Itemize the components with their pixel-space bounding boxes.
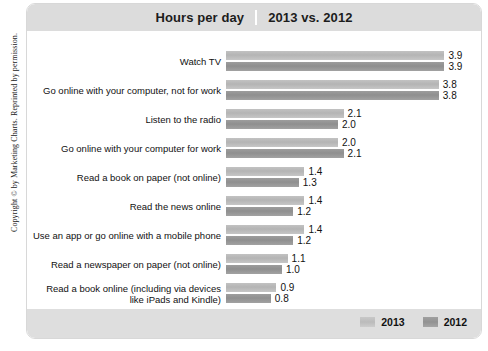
bar-row-label: Listen to the radio [27,114,226,125]
bar-value-label: 3.8 [443,91,457,100]
bar-row-bars: 0.90.8 [226,279,481,308]
bar-rect [226,294,271,303]
bar-rect [226,283,276,292]
bar-value-label: 2.0 [342,138,356,147]
bar-2013: 0.9 [226,283,294,292]
bar-row-bars: 3.93.9 [226,47,481,76]
chart-subtitle: 2013 vs. 2012 [268,10,352,25]
chart-plot-area: Watch TV3.93.9Go online with your comput… [27,31,481,311]
bar-row-bars: 1.41.3 [226,163,481,192]
bar-row-label: Watch TV [27,56,226,67]
bar-value-label: 1.4 [308,196,322,205]
bar-row-bars: 2.12.0 [226,105,481,134]
bar-rect [226,236,293,245]
bar-rect [226,196,304,205]
bar-2013: 1.4 [226,225,322,234]
bar-2012: 2.0 [226,120,356,129]
bar-rect [226,91,439,100]
bar-rect [226,51,444,60]
bar-value-label: 2.1 [348,109,362,118]
bar-2012: 3.9 [226,62,462,71]
bar-row: Watch TV3.93.9 [27,47,481,76]
bar-value-label: 1.4 [308,225,322,234]
bar-value-label: 1.4 [308,167,322,176]
bar-row: Go online with your computer, not for wo… [27,76,481,105]
bar-2013: 3.9 [226,51,462,60]
bar-row-label: Use an app or go online with a mobile ph… [27,230,226,241]
bar-row-bars: 1.41.2 [226,221,481,250]
bar-2013: 2.1 [226,109,362,118]
bar-rect [226,120,338,129]
chart-screenshot: Copyright © by Marketing Charts. Reprint… [0,0,488,351]
legend-swatch-icon [360,317,375,327]
bar-rect [226,138,338,147]
bar-row-label: Go online with your computer for work [27,143,226,154]
legend-label: 2012 [444,316,467,328]
chart-title: Hours per day [155,10,244,25]
chart-header: Hours per day 2013 vs. 2012 [27,4,481,31]
bar-rect [226,167,304,176]
chart-footer: 20132012 [27,309,481,338]
bar-row-bars: 3.83.8 [226,76,481,105]
bar-2012: 1.2 [226,207,311,216]
bar-row-label: Read a book on paper (not online) [27,172,226,183]
bar-rect [226,265,282,274]
bar-row-label: Go online with your computer, not for wo… [27,85,226,96]
bar-2012: 1.2 [226,236,311,245]
bar-value-label: 0.8 [275,294,289,303]
legend-item-2012: 2012 [423,316,467,328]
bar-2012: 3.8 [226,91,457,100]
bar-row: Read a book online (including via device… [27,279,481,308]
bar-2013: 1.4 [226,196,322,205]
chart-legend: 20132012 [360,316,467,328]
bar-value-label: 1.2 [297,236,311,245]
bar-rect [226,178,299,187]
bar-row: Read the news online1.41.2 [27,192,481,221]
bar-rows: Watch TV3.93.9Go online with your comput… [27,47,481,308]
bar-row: Use an app or go online with a mobile ph… [27,221,481,250]
bar-2013: 2.0 [226,138,356,147]
bar-row-label: Read the news online [27,201,226,212]
bar-value-label: 2.1 [348,149,362,158]
bar-2012: 1.3 [226,178,317,187]
bar-value-label: 3.9 [448,51,462,60]
bar-2013: 1.4 [226,167,322,176]
bar-rect [226,149,344,158]
bar-value-label: 0.9 [280,283,294,292]
bar-rect [226,109,344,118]
bar-row-bars: 1.41.2 [226,192,481,221]
bar-2012: 1.0 [226,265,300,274]
bar-2012: 0.8 [226,294,289,303]
bar-value-label: 1.3 [303,178,317,187]
bar-value-label: 1.0 [286,265,300,274]
bar-rect [226,207,293,216]
bar-value-label: 2.0 [342,120,356,129]
bar-value-label: 3.9 [448,62,462,71]
legend-label: 2013 [381,316,404,328]
bar-rect [226,254,288,263]
bar-row: Read a newspaper on paper (not online)1.… [27,250,481,279]
legend-swatch-icon [423,317,438,327]
bar-2012: 2.1 [226,149,362,158]
bar-row: Read a book on paper (not online)1.41.3 [27,163,481,192]
copyright-notice: Copyright © by Marketing Charts. Reprint… [10,33,19,233]
bar-row-label: Read a book online (including via device… [27,283,226,305]
bar-2013: 1.1 [226,254,306,263]
bar-row: Go online with your computer for work2.0… [27,134,481,163]
bar-value-label: 3.8 [443,80,457,89]
bar-rect [226,62,444,71]
bar-value-label: 1.2 [297,207,311,216]
bar-value-label: 1.1 [292,254,306,263]
bar-row-bars: 1.11.0 [226,250,481,279]
bar-rect [226,80,439,89]
bar-row-bars: 2.02.1 [226,134,481,163]
bar-row: Listen to the radio2.12.0 [27,105,481,134]
legend-item-2013: 2013 [360,316,404,328]
chart-card: Hours per day 2013 vs. 2012 Watch TV3.93… [26,3,482,339]
header-divider [255,10,257,25]
bar-2013: 3.8 [226,80,457,89]
bar-row-label: Read a newspaper on paper (not online) [27,259,226,270]
bar-rect [226,225,304,234]
